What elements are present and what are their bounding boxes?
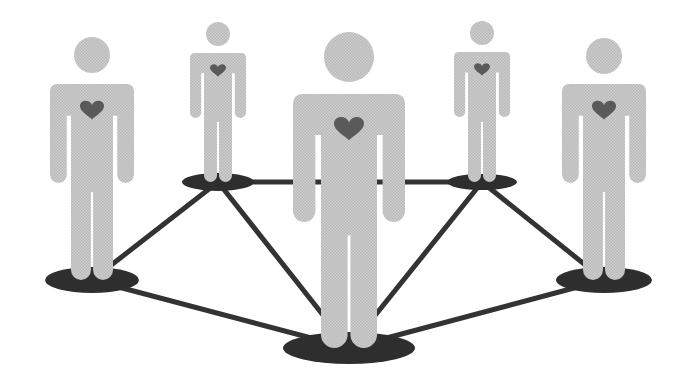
person-right-arm: [383, 105, 405, 222]
network-illustration: [0, 0, 692, 391]
person-left-leg: [204, 110, 217, 182]
people-figures: [50, 21, 646, 348]
person-hips: [583, 180, 625, 192]
person-head: [586, 38, 622, 74]
node-base-ellipse: [283, 332, 415, 364]
person-right-leg: [605, 180, 625, 280]
person-left-arm: [50, 92, 67, 183]
person-left-arm: [293, 105, 315, 222]
person-left-leg: [583, 180, 603, 280]
person-hips: [204, 110, 232, 119]
person-right-leg: [350, 220, 377, 348]
node-base-ellipse: [45, 267, 139, 293]
person-left-leg: [321, 220, 348, 348]
person-left-arm: [454, 58, 465, 117]
person-head: [206, 22, 230, 46]
network-canvas: [0, 0, 692, 391]
person-hips: [321, 220, 377, 235]
person-head: [74, 37, 110, 73]
node-base-ellipse: [556, 267, 652, 293]
person-torso: [71, 86, 113, 192]
person-right-leg: [483, 110, 496, 182]
person-head: [470, 21, 494, 45]
node-base-ellipse: [182, 173, 254, 191]
person-right-arm: [117, 92, 134, 183]
person-torso: [321, 96, 377, 232]
person-right-leg: [93, 180, 113, 280]
person-back-right-figure: [454, 21, 510, 182]
person-left-arm: [190, 59, 201, 118]
person-right-arm: [499, 58, 510, 117]
person-right-figure: [562, 38, 646, 280]
person-left-arm: [562, 92, 579, 183]
person-back-left-figure: [190, 22, 246, 182]
person-right-leg: [219, 110, 232, 182]
person-left-leg: [468, 110, 481, 182]
node-base-ellipse: [447, 174, 517, 190]
person-right-arm: [235, 59, 246, 118]
person-head: [324, 32, 374, 82]
person-torso: [583, 86, 625, 192]
person-right-arm: [629, 92, 646, 183]
person-left-figure: [50, 37, 134, 280]
person-hips: [468, 110, 496, 119]
person-hips: [71, 180, 113, 192]
person-left-leg: [71, 180, 91, 280]
